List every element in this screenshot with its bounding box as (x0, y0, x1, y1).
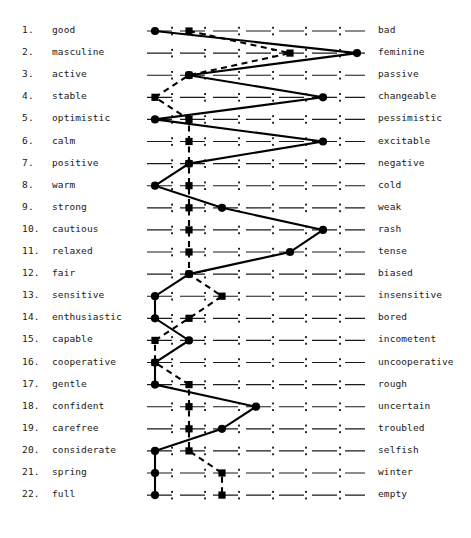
scale-tick (204, 299, 206, 301)
right-pole-label: empty (378, 488, 407, 499)
dashed-line-squares-marker (185, 27, 192, 34)
scale-tick (339, 277, 341, 279)
scale-tick (305, 498, 307, 500)
row-number: 8. (22, 179, 34, 190)
solid-line-circles-marker (252, 403, 260, 411)
scale-tick (272, 475, 274, 477)
scale-tick (171, 166, 173, 168)
right-pole-label: bored (378, 311, 407, 322)
left-pole-label: cooperative (52, 356, 116, 367)
left-pole-label: stable (52, 90, 87, 101)
scale-tick (272, 321, 274, 323)
dashed-line-squares-marker (185, 403, 192, 410)
scale-tick (238, 122, 240, 124)
scale-tick (339, 321, 341, 323)
scale-tick (238, 27, 240, 29)
right-pole-label: incometent (378, 333, 436, 344)
scale-tick (339, 93, 341, 95)
scale-tick (339, 248, 341, 250)
scale-tick (272, 248, 274, 250)
scale-tick (305, 321, 307, 323)
scale-tick (171, 71, 173, 73)
scale-tick (272, 210, 274, 212)
left-pole-label: masculine (52, 46, 104, 57)
scale-tick (238, 166, 240, 168)
solid-line-circles-marker (151, 115, 159, 123)
scale-tick (238, 277, 240, 279)
scale-tick (272, 409, 274, 411)
scale-tick (305, 475, 307, 477)
scale-tick (204, 387, 206, 389)
scale-tick (305, 182, 307, 184)
scale-tick (204, 277, 206, 279)
scale-tick (171, 498, 173, 500)
scale-tick (305, 453, 307, 455)
row-number: 16. (22, 356, 40, 367)
left-pole-label: cautious (52, 223, 99, 234)
scale-tick (272, 159, 274, 161)
scale-tick (204, 336, 206, 338)
scale-tick (339, 498, 341, 500)
right-pole-label: bad (378, 24, 395, 35)
scale-tick (272, 226, 274, 228)
right-pole-label: passive (378, 68, 419, 79)
row-number: 12. (22, 267, 40, 278)
scale-tick (272, 498, 274, 500)
scale-tick (238, 358, 240, 360)
scale-tick (339, 380, 341, 382)
scale-tick (171, 188, 173, 190)
scale-tick (238, 431, 240, 433)
left-pole-label: sensitive (52, 289, 104, 300)
left-pole-label: carefree (52, 422, 99, 433)
scale-tick (204, 409, 206, 411)
solid-line-circles-marker (151, 292, 159, 300)
left-pole-label: warm (52, 179, 75, 190)
scale-tick (272, 204, 274, 206)
scale-tick (238, 425, 240, 427)
scale-tick (305, 447, 307, 449)
scale-tick (339, 204, 341, 206)
scale-tick (339, 166, 341, 168)
solid-line-circles-marker (353, 49, 361, 57)
scale-tick (171, 336, 173, 338)
scale-tick (339, 182, 341, 184)
scale-tick (238, 254, 240, 256)
dashed-line-squares-marker (185, 425, 192, 432)
scale-tick (238, 182, 240, 184)
row-number: 22. (22, 488, 40, 499)
scale-tick (339, 447, 341, 449)
row-number: 5. (22, 112, 34, 123)
scale-tick (171, 248, 173, 250)
scale-tick (305, 314, 307, 316)
scale-tick (171, 277, 173, 279)
scale-tick (171, 321, 173, 323)
row-number: 21. (22, 466, 40, 477)
left-pole-label: strong (52, 201, 87, 212)
scale-tick (305, 232, 307, 234)
left-pole-label: enthusiastic (52, 311, 122, 322)
scale-tick (238, 365, 240, 367)
dashed-line-squares-marker (185, 447, 192, 454)
scale-tick (339, 299, 341, 301)
scale-tick (204, 56, 206, 58)
scale-tick (272, 78, 274, 80)
scale-tick (171, 270, 173, 272)
right-pole-label: insensitive (378, 289, 442, 300)
scale-tick (171, 491, 173, 493)
solid-line-circles-marker (151, 469, 159, 477)
scale-tick (305, 277, 307, 279)
scale-tick (171, 314, 173, 316)
scale-tick (171, 447, 173, 449)
row-number: 7. (22, 157, 34, 168)
scale-tick (339, 453, 341, 455)
scale-tick (204, 314, 206, 316)
scale-tick (305, 387, 307, 389)
scale-tick (204, 453, 206, 455)
scale-tick (272, 453, 274, 455)
scale-tick (238, 299, 240, 301)
scale-tick (339, 137, 341, 139)
scale-tick (305, 431, 307, 433)
scale-tick (272, 71, 274, 73)
row-number: 1. (22, 24, 34, 35)
scale-tick (204, 447, 206, 449)
